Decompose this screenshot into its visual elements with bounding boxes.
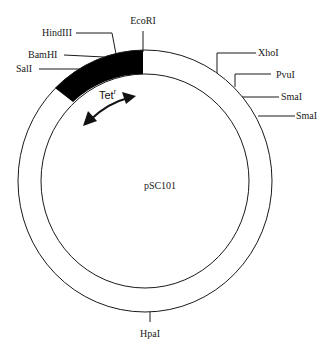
- hpai-label: HpaI: [140, 328, 160, 339]
- smai-2-label: SmaI: [296, 110, 317, 121]
- smai-1-label: SmaI: [281, 91, 302, 102]
- ecori-label: EcoRI: [130, 15, 156, 26]
- tet-gene-name: Tet: [99, 89, 114, 101]
- tet-gene-superscript: r: [114, 88, 117, 95]
- xhoi-marker-line: [217, 53, 256, 73]
- tet-arrow-head-left-icon: [83, 111, 97, 126]
- plasmid-name: pSC101: [144, 180, 176, 191]
- bamhi-marker-line: [64, 55, 104, 57]
- hindiii-label: HindIII: [42, 27, 72, 38]
- sali-label: SalI: [16, 63, 32, 74]
- pvui-marker-line: [235, 74, 271, 87]
- xhoi-label: XhoI: [258, 47, 279, 58]
- hindiii-marker-line: [76, 33, 116, 54]
- pvui-label: PvuI: [276, 69, 295, 80]
- tet-arrow-head-right-icon: [122, 92, 136, 104]
- plasmid-map: EcoRI HindIII BamHI SalI XhoI PvuI SmaI …: [0, 0, 331, 356]
- tet-gene-label: Tetr: [99, 88, 117, 101]
- bamhi-label: BamHI: [28, 49, 57, 60]
- tet-arrow-arc: [90, 98, 128, 120]
